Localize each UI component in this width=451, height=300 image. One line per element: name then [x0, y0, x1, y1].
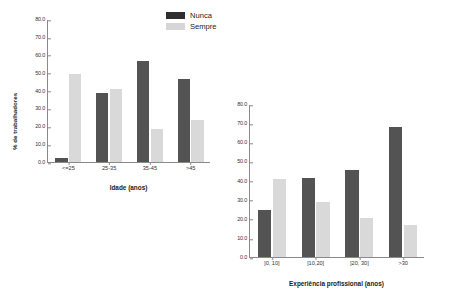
chart-idade-ytick: 70.0 — [35, 35, 48, 40]
chart-idade-bar-nunca-1 — [96, 93, 108, 162]
chart-idade-bar-nunca-3 — [178, 79, 190, 162]
chart-idade-ytick: 40.0 — [35, 89, 48, 94]
chart-idade-bar-sempre-3 — [191, 120, 203, 162]
chart-experiencia-plot-area: 0.010.020.030.040.050.060.070.080.0]0, 1… — [249, 105, 424, 258]
figure-container: Nunca Sempre % de trabalhadores 0.010.02… — [0, 0, 451, 300]
chart-idade-ytick: 50.0 — [35, 71, 48, 76]
chart-idade-ytick: 60.0 — [35, 53, 48, 58]
chart-experiencia-ytick: 50.0 — [237, 160, 250, 165]
chart-idade-panel: % de trabalhadores 0.010.020.030.040.050… — [0, 0, 225, 200]
chart-idade-bar-sempre-2 — [151, 129, 163, 162]
chart-idade-ytick: 20.0 — [35, 125, 48, 130]
chart-idade-bar-sempre-1 — [110, 89, 122, 162]
chart-experiencia-bar-sempre-3 — [404, 225, 417, 257]
chart-experiencia-xtick: ]20, 30] — [350, 257, 369, 267]
chart-experiencia-bar-sempre-2 — [360, 218, 373, 257]
chart-idade-ytick: 30.0 — [35, 107, 48, 112]
chart-experiencia-ytick: 0.0 — [240, 255, 250, 260]
chart-experiencia-ytick: 10.0 — [237, 236, 250, 241]
chart-experiencia-xtick: ]10,20] — [307, 257, 324, 267]
chart-idade-xtick: 25-35 — [102, 162, 116, 172]
chart-idade-ytick: 10.0 — [35, 142, 48, 147]
chart-idade-bar-sempre-0 — [69, 74, 81, 162]
chart-idade-bar-nunca-2 — [137, 61, 149, 162]
chart-idade-xtick: >45 — [186, 162, 196, 172]
chart-idade-y-axis-label: % de trabalhadores — [12, 93, 18, 150]
chart-experiencia-ytick: 40.0 — [237, 179, 250, 184]
chart-idade-ytick: 0.0 — [38, 160, 48, 165]
chart-experiencia-ytick: 70.0 — [237, 121, 250, 126]
chart-experiencia-ytick: 20.0 — [237, 217, 250, 222]
chart-experiencia-ytick: 60.0 — [237, 141, 250, 146]
chart-idade-x-axis-label: Idade (anos) — [47, 185, 210, 191]
chart-experiencia-bar-nunca-1 — [302, 178, 315, 257]
chart-experiencia-bar-sempre-1 — [316, 202, 329, 257]
chart-experiencia-xtick: ]0, 10] — [264, 257, 280, 267]
chart-idade-ytick: 80.0 — [35, 17, 48, 22]
chart-experiencia-bar-sempre-0 — [273, 179, 286, 257]
chart-experiencia-bar-nunca-0 — [258, 210, 271, 257]
chart-idade-xtick: <=25 — [62, 162, 75, 172]
chart-experiencia-panel: 0.010.020.030.040.050.060.070.080.0]0, 1… — [225, 95, 451, 300]
chart-idade-plot-area: 0.010.020.030.040.050.060.070.080.0<=252… — [47, 20, 210, 163]
chart-experiencia-bar-nunca-2 — [345, 170, 358, 257]
chart-experiencia-ytick: 30.0 — [237, 198, 250, 203]
chart-experiencia-x-axis-label: Experiência profissional (anos) — [249, 281, 424, 287]
chart-experiencia-xtick: >30 — [398, 257, 408, 267]
chart-experiencia-bar-nunca-3 — [389, 127, 402, 257]
chart-idade-bar-nunca-0 — [55, 158, 67, 162]
chart-experiencia-ytick: 80.0 — [237, 102, 250, 107]
chart-idade-xtick: 35-45 — [143, 162, 157, 172]
